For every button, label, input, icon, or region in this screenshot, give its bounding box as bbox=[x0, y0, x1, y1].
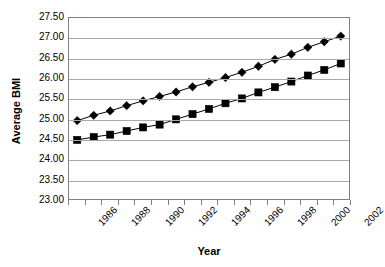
y-axis-title: Average BMI bbox=[10, 51, 22, 171]
data-point-square bbox=[107, 131, 114, 138]
data-point-square bbox=[140, 124, 147, 131]
data-point-diamond bbox=[122, 102, 130, 110]
gridline bbox=[69, 38, 349, 39]
x-axis-title: Year bbox=[68, 245, 350, 257]
data-point-diamond bbox=[287, 50, 295, 58]
y-tick-label: 27.00 bbox=[26, 32, 64, 42]
gridline bbox=[69, 120, 349, 121]
x-tick-label: 1988 bbox=[130, 205, 153, 228]
data-point-diamond bbox=[90, 111, 98, 119]
x-tick-label: 2002 bbox=[362, 205, 385, 228]
gridline bbox=[69, 79, 349, 80]
y-axis-tick-labels: 27.5027.0026.5026.0025.5025.0024.5024.00… bbox=[26, 17, 64, 200]
data-point-square bbox=[271, 84, 278, 91]
x-tick-label: 1998 bbox=[296, 205, 319, 228]
x-tick-label: 1990 bbox=[163, 205, 186, 228]
y-tick-label: 26.50 bbox=[26, 53, 64, 63]
data-point-square bbox=[304, 72, 311, 79]
data-point-square bbox=[321, 66, 328, 73]
y-tick-label: 23.00 bbox=[26, 195, 64, 205]
data-point-square bbox=[189, 111, 196, 118]
data-point-square bbox=[156, 121, 163, 128]
series-square bbox=[74, 60, 345, 144]
gridline bbox=[69, 140, 349, 141]
x-tick-label: 1996 bbox=[263, 205, 286, 228]
y-tick-label: 27.50 bbox=[26, 12, 64, 22]
gridline bbox=[69, 99, 349, 100]
y-tick-label: 24.50 bbox=[26, 134, 64, 144]
gridline bbox=[69, 160, 349, 161]
gridline bbox=[69, 59, 349, 60]
data-point-diamond bbox=[238, 68, 246, 76]
data-point-square bbox=[255, 89, 262, 96]
series-line bbox=[77, 63, 341, 139]
data-point-diamond bbox=[139, 97, 147, 105]
data-point-diamond bbox=[304, 43, 312, 51]
data-point-diamond bbox=[172, 88, 180, 96]
plot-area bbox=[68, 17, 350, 200]
y-tick-label: 24.00 bbox=[26, 154, 64, 164]
data-point-square bbox=[123, 127, 130, 134]
data-point-diamond bbox=[188, 83, 196, 91]
y-tick-label: 23.50 bbox=[26, 175, 64, 185]
x-tick-label: 1992 bbox=[196, 205, 219, 228]
y-tick-label: 25.00 bbox=[26, 114, 64, 124]
data-point-square bbox=[222, 100, 229, 107]
data-point-diamond bbox=[254, 62, 262, 70]
y-tick-label: 25.50 bbox=[26, 93, 64, 103]
x-tick-mark bbox=[350, 200, 351, 205]
data-point-square bbox=[337, 60, 344, 67]
y-tick-label: 26.00 bbox=[26, 73, 64, 83]
data-point-diamond bbox=[106, 107, 114, 115]
x-tick-label: 1994 bbox=[230, 205, 253, 228]
data-point-diamond bbox=[221, 73, 229, 81]
x-tick-label: 1986 bbox=[97, 205, 120, 228]
series-lines-and-markers bbox=[69, 18, 349, 199]
data-point-square bbox=[205, 105, 212, 112]
x-tick-label: 2000 bbox=[329, 205, 352, 228]
gridline bbox=[69, 181, 349, 182]
x-axis-tick-labels: 198619881990199219941996199820002002 bbox=[68, 205, 350, 245]
